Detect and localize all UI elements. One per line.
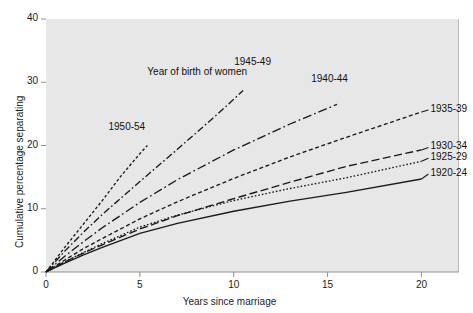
series-label-1940-44: 1940-44 [311, 73, 348, 84]
leader-line-1935-39 [421, 110, 428, 112]
x-tick-label: 0 [34, 279, 58, 290]
series-label-1920-24: 1920-24 [430, 167, 467, 178]
series-line-1920-24 [46, 179, 421, 272]
y-tick-label: 10 [27, 202, 38, 213]
y-tick-label: 30 [27, 75, 38, 86]
y-tick-label: 40 [27, 12, 38, 23]
label-leader-lines [421, 110, 428, 179]
x-tick-label: 20 [409, 279, 433, 290]
y-tick-label: 20 [27, 139, 38, 150]
leader-line-1920-24 [421, 174, 428, 179]
data-series-group [46, 90, 421, 272]
series-line-1950-54 [46, 146, 147, 273]
series-label-1935-39: 1935-39 [430, 103, 467, 114]
x-tick-label: 10 [222, 279, 246, 290]
y-axis-title: Cumulative percentage separating [14, 96, 25, 248]
series-label-1930-34: 1930-34 [430, 140, 467, 151]
series-label-1950-54: 1950-54 [108, 121, 145, 132]
x-tick-label: 15 [316, 279, 340, 290]
x-axis-title: Years since marriage [0, 296, 459, 307]
chart-figure: 010203040 05101520 Cumulative percentage… [0, 0, 473, 313]
leader-line-1925-29 [421, 158, 428, 161]
series-line-1925-29 [46, 161, 421, 272]
chart-annotation: Year of birth of women [147, 66, 247, 77]
chart-canvas [0, 0, 473, 313]
series-line-1945-49 [46, 90, 243, 272]
series-line-1940-44 [46, 104, 337, 272]
y-tick-label: 0 [32, 265, 38, 276]
leader-line-1930-34 [421, 147, 428, 150]
axis-ticks [41, 19, 421, 277]
x-tick-label: 5 [128, 279, 152, 290]
series-label-1945-49: 1945-49 [234, 56, 271, 67]
series-label-1925-29: 1925-29 [430, 151, 467, 162]
